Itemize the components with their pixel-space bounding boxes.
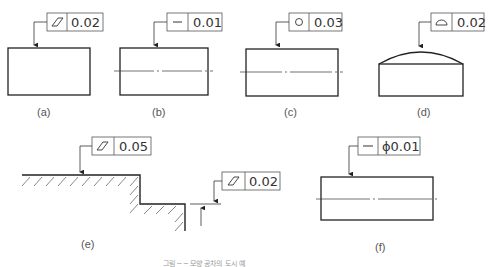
feature-control-frame: 0.03 <box>289 13 343 31</box>
gdt-diagram: 0.02 (a) 0.01 (b) 0.03 (c) <box>0 0 494 267</box>
svg-text:(c): (c) <box>284 106 297 118</box>
figure-caption: 그림 ─ ─ 모양 공차의 도시 예 <box>163 259 245 267</box>
svg-text:0.01: 0.01 <box>193 15 222 30</box>
svg-text:0.03: 0.03 <box>314 15 343 30</box>
svg-text:0.02: 0.02 <box>457 15 486 30</box>
figure-b: 0.01 (b) <box>114 13 222 118</box>
feature-control-frame: 0.02 <box>47 13 103 31</box>
svg-text:(f): (f) <box>375 241 385 253</box>
figure-a: 0.02 (a) <box>8 13 103 118</box>
svg-text:(e): (e) <box>81 238 94 250</box>
svg-text:0.05: 0.05 <box>119 139 148 154</box>
svg-text:(a): (a) <box>37 106 50 118</box>
feature-control-frame: 0.01 <box>167 13 222 31</box>
figure-e: 0.05 0.02 <box>22 137 280 250</box>
feature-control-frame: ϕ0.01 <box>358 137 420 155</box>
svg-text:ϕ0.01: ϕ0.01 <box>382 139 420 154</box>
feature-control-frame: 0.05 <box>92 137 151 155</box>
svg-text:0.02: 0.02 <box>249 174 278 189</box>
figure-c: 0.03 (c) <box>240 13 343 118</box>
figure-f: ϕ0.01 (f) <box>316 137 439 253</box>
svg-text:0.02: 0.02 <box>71 15 100 30</box>
feature-control-frame: 0.02 <box>222 172 280 190</box>
figure-d: 0.02 (d) <box>379 13 486 118</box>
feature-control-frame: 0.02 <box>431 13 486 31</box>
svg-text:(b): (b) <box>152 106 165 118</box>
svg-text:(d): (d) <box>417 106 430 118</box>
